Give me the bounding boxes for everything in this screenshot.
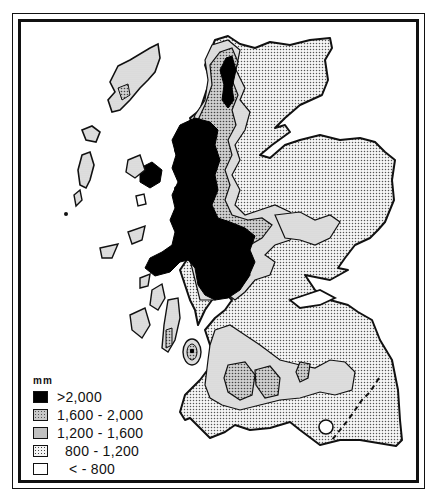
island-inner-4 (140, 274, 150, 288)
legend-label: 1,600 - 2,000 (57, 407, 143, 423)
legend-item-800-1200: 800 - 1,200 (33, 442, 163, 460)
legend-swatch-black-icon (33, 391, 48, 403)
legend-label: 800 - 1,200 (57, 443, 139, 459)
legend-swatch-sparse-icon (33, 445, 48, 457)
island-mull (128, 226, 145, 244)
legend-swatch-white-icon (33, 463, 48, 475)
legend-item-1600-2000: 1,600 - 2,000 (33, 406, 163, 424)
solway-inlet (319, 420, 333, 434)
legend: mm >2,000 1,600 - 2,000 1,200 - 1,600 80… (33, 375, 163, 478)
legend-label: < - 800 (57, 461, 115, 477)
island-islay (130, 308, 150, 338)
island-inner-3 (100, 244, 118, 258)
legend-unit: mm (33, 375, 163, 386)
legend-item-1200-1600: 1,200 - 1,600 (33, 424, 163, 442)
legend-label: >2,000 (57, 389, 102, 405)
island-uist-south (78, 152, 94, 188)
legend-item-over-2000: >2,000 (33, 388, 163, 406)
island-barra (74, 190, 82, 206)
island-arran-peak (190, 349, 194, 353)
island-kintyre-stipple (166, 328, 172, 348)
island-lewis (108, 44, 160, 112)
island-uist-north (82, 126, 100, 142)
island-jura (150, 284, 165, 310)
island-small-1 (64, 212, 68, 216)
island-inner-2 (136, 194, 146, 206)
legend-item-under-800: < - 800 (33, 460, 163, 478)
legend-label: 1,200 - 1,600 (57, 425, 143, 441)
legend-swatch-dense-icon (33, 409, 48, 421)
legend-swatch-light-icon (33, 427, 48, 439)
